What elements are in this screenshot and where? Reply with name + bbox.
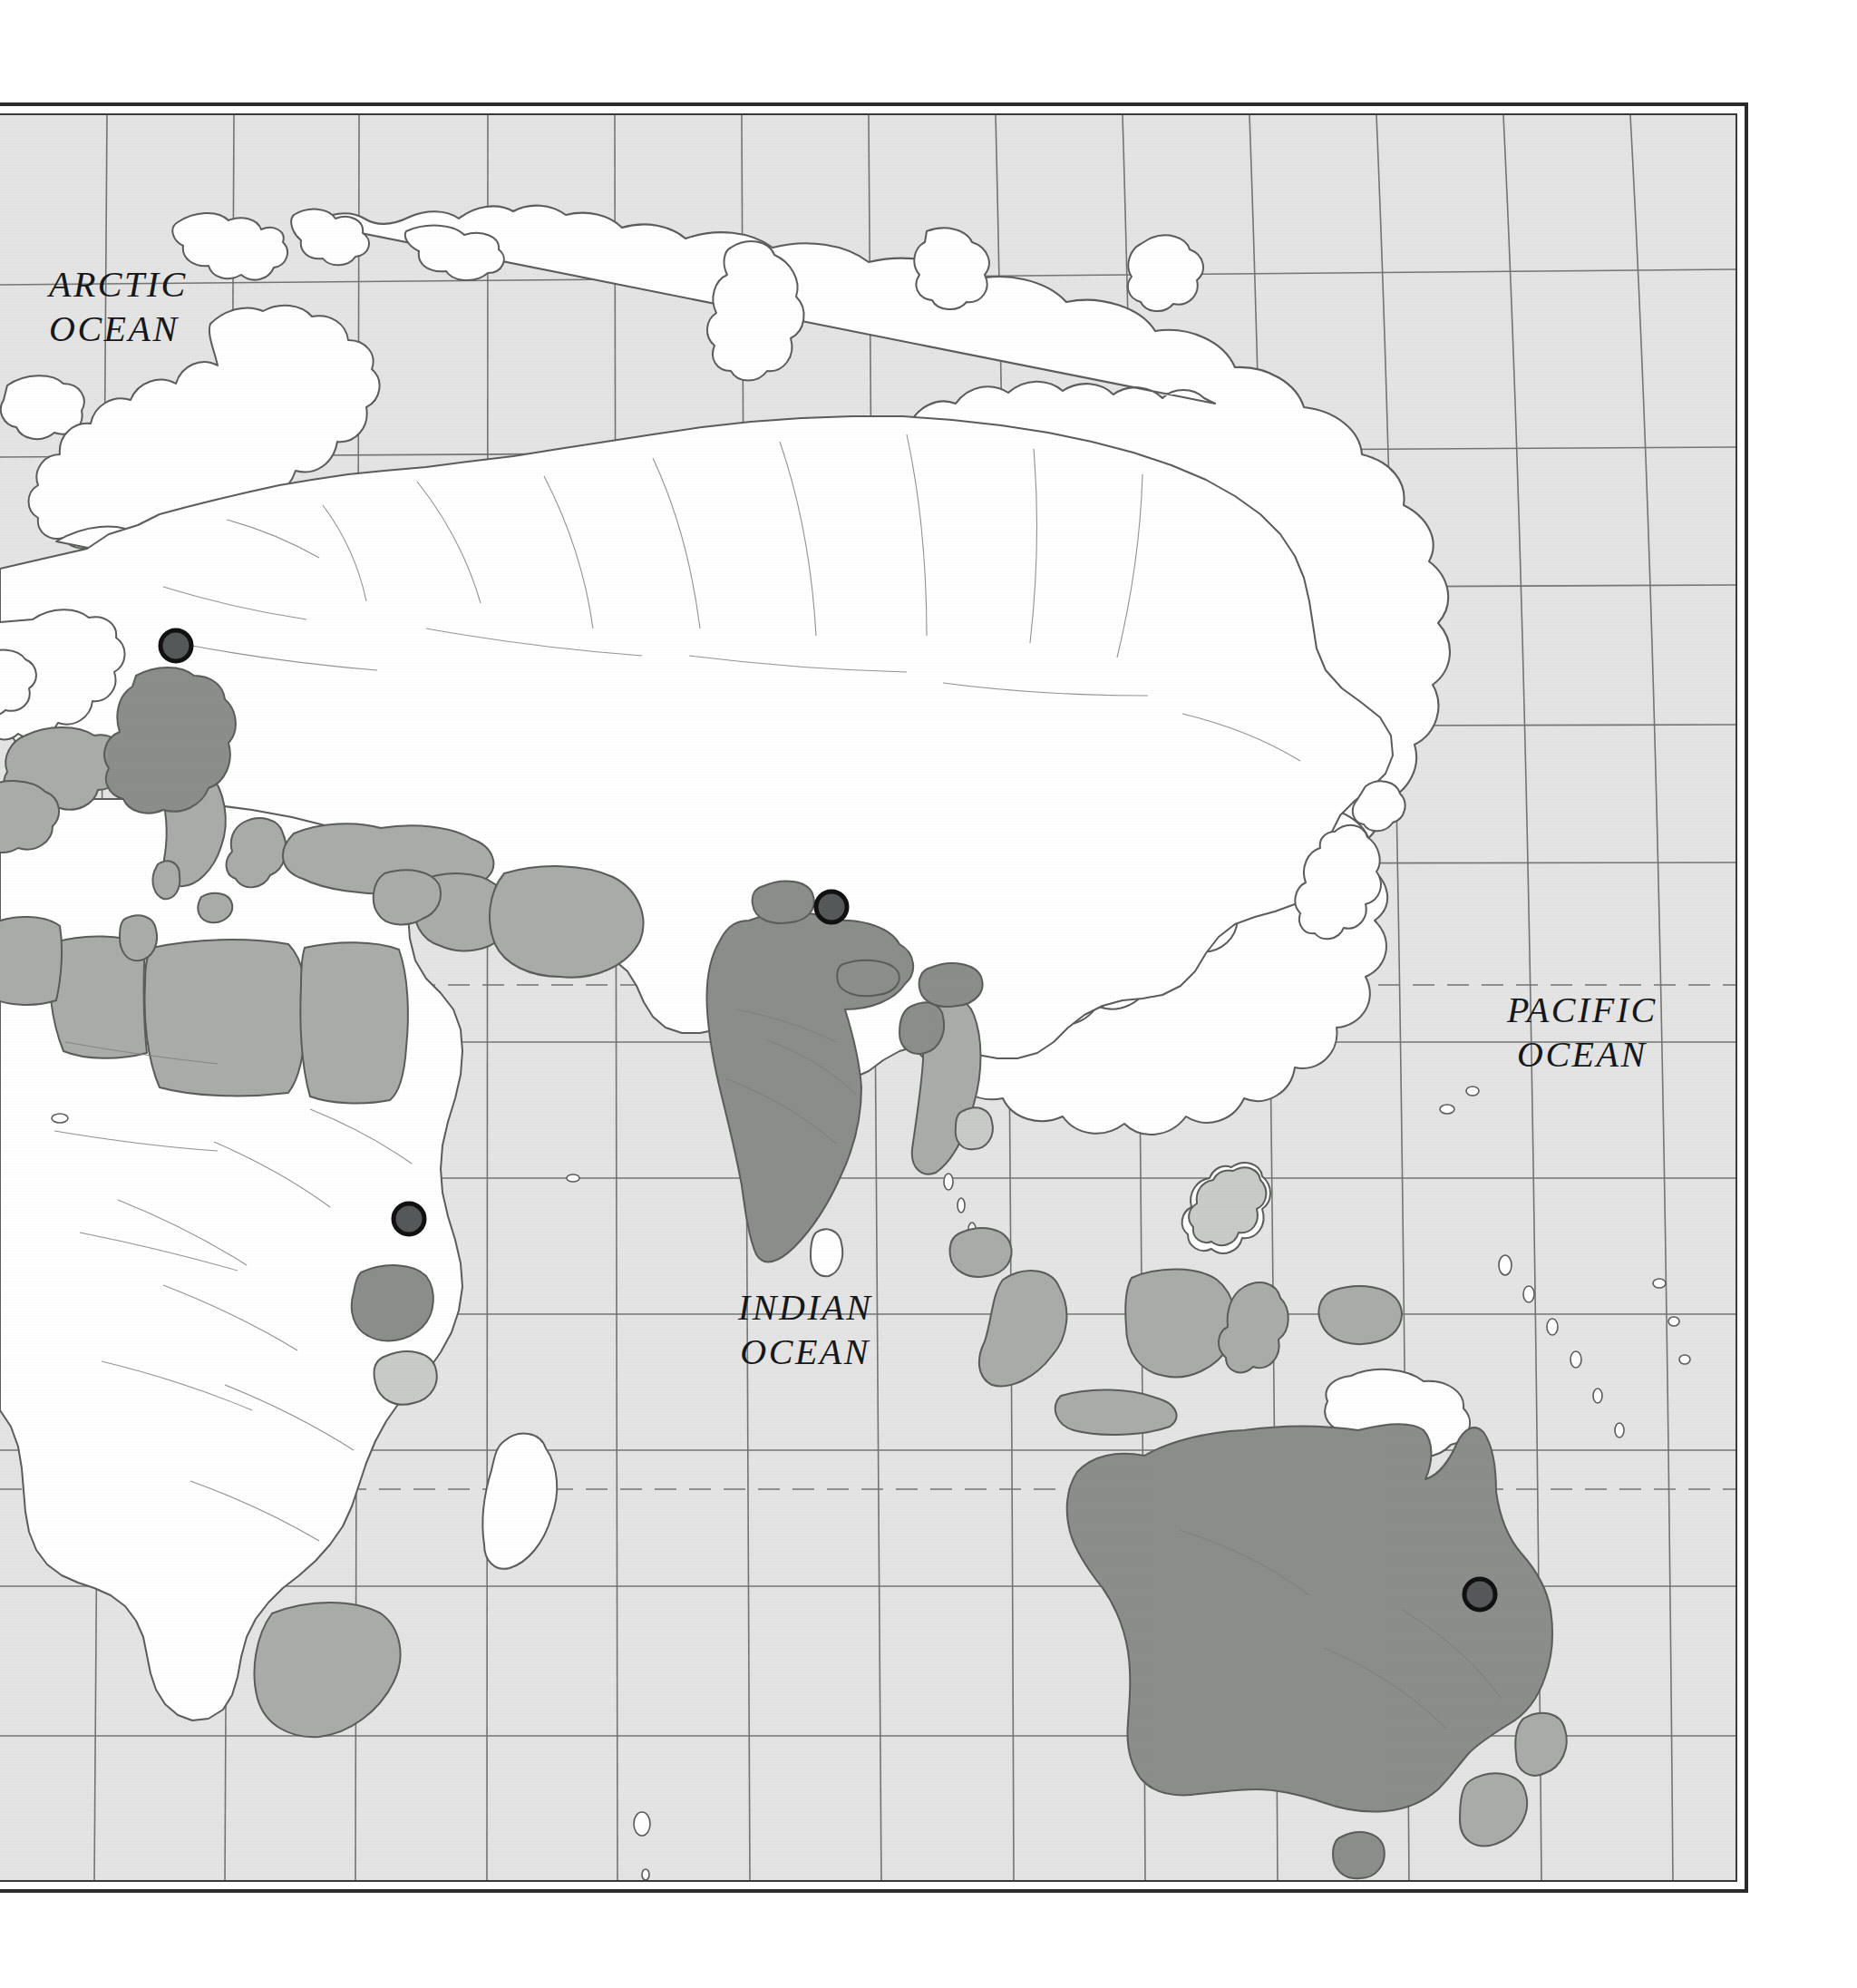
island-new-siberian — [1128, 235, 1203, 311]
ocean-label-arctic: ARCTIC OCEAN — [49, 263, 188, 352]
ocean-label-indian-line1: INDIAN — [738, 1287, 872, 1328]
ocean-label-arctic-line1: ARCTIC — [49, 264, 188, 305]
marker-uganda: Uganda — [394, 1204, 424, 1234]
country-australia-tasmania — [1333, 1832, 1385, 1878]
island-severnaya — [914, 228, 988, 309]
world-map-figure: GermanyIndiaUgandaAustralia ARCTIC OCEAN… — [0, 0, 1857, 1988]
ocean-label-indian-line2: OCEAN — [738, 1330, 872, 1375]
country-laos-light — [956, 1107, 993, 1149]
country-indonesia-java — [1055, 1389, 1177, 1435]
country-libya — [145, 940, 306, 1096]
country-tunisia — [120, 915, 157, 960]
map-inner-frame: GermanyIndiaUgandaAustralia ARCTIC OCEAN… — [0, 113, 1737, 1882]
country-sardinia — [152, 861, 180, 899]
country-south-africa — [255, 1603, 401, 1737]
country-indonesia-borneo — [1125, 1269, 1235, 1377]
country-new-zealand-n — [1515, 1713, 1566, 1776]
land-africa — [0, 799, 462, 1720]
ocean-label-pacific-line2: OCEAN — [1507, 1033, 1658, 1077]
land-sri-lanka — [811, 1229, 842, 1276]
ocean-label-pacific: PACIFIC OCEAN — [1507, 989, 1658, 1077]
map-canvas: GermanyIndiaUgandaAustralia — [0, 115, 1737, 1882]
country-morocco — [0, 917, 62, 1005]
country-indonesia-papua-w — [1318, 1286, 1401, 1344]
country-egypt — [300, 942, 408, 1103]
land-madagascar — [482, 1434, 557, 1569]
country-tanzania-light — [374, 1351, 437, 1405]
country-northeast-india — [919, 963, 983, 1007]
map-outer-frame: GermanyIndiaUgandaAustralia ARCTIC OCEAN… — [0, 102, 1748, 1893]
country-new-zealand-s — [1460, 1773, 1527, 1846]
country-malaysia — [950, 1228, 1012, 1277]
country-australia — [1067, 1424, 1552, 1811]
marker-australia: Australia — [1464, 1579, 1495, 1610]
marker-germany: Germany — [160, 630, 191, 661]
country-indonesia-sumatra — [979, 1271, 1067, 1386]
country-bangladesh — [899, 1002, 944, 1053]
country-italy-sicily — [198, 893, 232, 922]
country-nepal — [837, 960, 899, 996]
ocean-label-arctic-line2: OCEAN — [49, 307, 188, 352]
country-india-kashmir — [753, 881, 814, 923]
marker-india: India — [816, 892, 847, 922]
island-svalbard — [172, 213, 287, 280]
country-iran — [490, 866, 643, 977]
ocean-label-pacific-line1: PACIFIC — [1507, 989, 1658, 1030]
ocean-label-indian: INDIAN OCEAN — [738, 1286, 872, 1375]
